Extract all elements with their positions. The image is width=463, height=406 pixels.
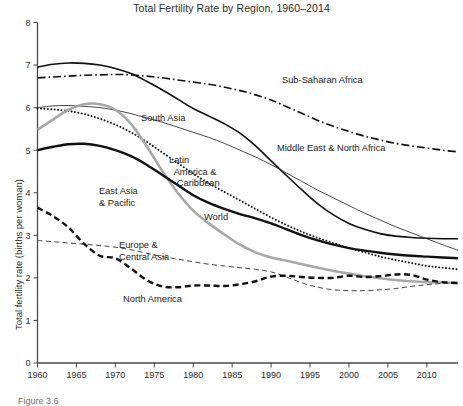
series-line-sub-saharan-africa xyxy=(38,74,459,151)
x-tick-label: 1995 xyxy=(300,370,320,380)
figure-caption: Figure 3.6 xyxy=(18,396,59,406)
series-label-latin-america-caribbean: Latin America & Caribbean xyxy=(169,155,220,190)
y-tick-label: 1 xyxy=(25,316,30,326)
x-tick-label: 1990 xyxy=(261,370,281,380)
x-tick-label: 1980 xyxy=(183,370,203,380)
x-tick-label: 2010 xyxy=(417,370,437,380)
x-tick-label: 1960 xyxy=(27,370,47,380)
y-tick-label: 2 xyxy=(25,273,30,283)
series-label-east-asia-pacific: East Asia & Pacific xyxy=(99,186,138,209)
y-tick-label: 6 xyxy=(25,103,30,113)
y-tick-label: 7 xyxy=(25,60,30,70)
series-line-south-asia xyxy=(38,105,459,250)
x-tick-label: 1965 xyxy=(66,370,86,380)
x-tick-label: 2000 xyxy=(339,370,359,380)
series-label-middle-east-north-africa: Middle East & North Africa xyxy=(277,143,386,155)
series-label-north-america: North America xyxy=(123,294,182,306)
y-axis-title: Total fertility rate (births per woman) xyxy=(13,179,24,330)
x-tick-label: 2005 xyxy=(378,370,398,380)
series-label-world: World xyxy=(204,212,228,224)
y-tick-label: 0 xyxy=(25,358,30,368)
chart-plot-area: 0123456781960196519701975198019851990199… xyxy=(0,0,463,406)
series-label-europe-central-asia: Europe & Central Asia xyxy=(119,240,169,263)
axes: 0123456781960196519701975198019851990199… xyxy=(25,18,458,380)
data-series-group xyxy=(38,63,459,291)
series-label-sub-saharan-africa: Sub-Saharan Africa xyxy=(282,75,363,87)
fertility-rate-figure: Total Fertility Rate by Region, 1960–201… xyxy=(0,0,463,406)
y-tick-label: 5 xyxy=(25,146,30,156)
series-line-middle-east-north-africa xyxy=(38,63,459,239)
x-tick-label: 1975 xyxy=(144,370,164,380)
y-tick-label: 4 xyxy=(25,188,30,198)
y-tick-label: 3 xyxy=(25,231,30,241)
x-tick-label: 1985 xyxy=(222,370,242,380)
x-tick-label: 1970 xyxy=(105,370,125,380)
series-label-south-asia: South Asia xyxy=(141,113,185,125)
y-tick-label: 8 xyxy=(25,18,30,28)
